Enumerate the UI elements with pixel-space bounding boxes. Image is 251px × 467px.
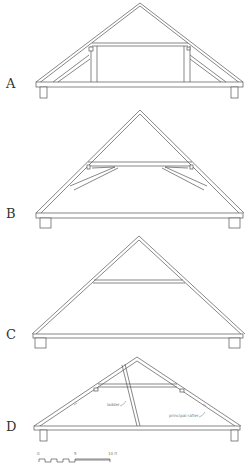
ladder-label: ladder [107, 402, 120, 407]
panel-label-d: D [6, 419, 16, 434]
scale-tick-10: 10 ft [108, 451, 117, 456]
panel-label-b: B [6, 206, 16, 221]
truss-b [36, 110, 244, 228]
truss-d [34, 357, 241, 441]
truss-a [36, 3, 243, 98]
panel-label-c: C [6, 327, 16, 342]
truss-c [32, 236, 245, 348]
scale-tick-0: 0 [37, 451, 40, 456]
principal-rafter-label: principal rafter [169, 413, 199, 418]
scale-bar [39, 459, 110, 462]
truss-drawings [0, 0, 251, 467]
scale-tick-5: 5 [74, 451, 77, 456]
panel-label-a: A [6, 76, 15, 91]
